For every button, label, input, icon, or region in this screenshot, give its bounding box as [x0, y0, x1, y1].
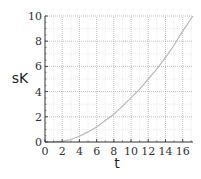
line-chart: 0246810121416 0246810 t sK	[0, 0, 201, 179]
y-tick-label: 10	[28, 10, 42, 23]
x-tick-label: 10	[124, 145, 138, 158]
x-tick-label: 12	[141, 145, 155, 158]
x-tick-label: 0	[42, 145, 49, 158]
minor-grid	[45, 16, 193, 142]
y-axis-label: sK	[12, 70, 29, 86]
y-tick-label: 6	[35, 60, 42, 73]
y-tick-label: 2	[35, 111, 42, 124]
y-tick-label: 0	[35, 136, 42, 149]
x-tick-label: 6	[93, 145, 100, 158]
y-tick-label: 4	[35, 86, 42, 99]
x-tick-label: 2	[59, 145, 66, 158]
x-axis-label: t	[114, 155, 120, 171]
x-tick-label: 16	[176, 145, 190, 158]
y-tick-label: 8	[35, 35, 42, 48]
x-tick-label: 14	[158, 145, 172, 158]
x-tick-label: 4	[76, 145, 83, 158]
